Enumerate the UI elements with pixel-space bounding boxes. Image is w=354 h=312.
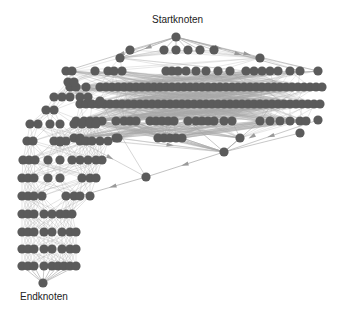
graph-node [57,227,66,236]
graph-node [285,116,294,125]
graph-node [255,53,264,62]
graph-node [95,96,104,105]
graph-node [85,191,94,200]
graph-node [225,66,234,75]
graph-node [213,66,222,75]
graph-node [55,155,64,164]
graph-node [43,173,52,182]
graph-node [265,66,274,75]
graph-node [103,136,112,145]
nodes-layer [17,32,326,287]
end-node-label: Endknoten [20,291,68,302]
graph-node [257,66,266,75]
graph-node [69,77,78,86]
graph-node [41,105,50,114]
graph-node [47,227,56,236]
graph-node [201,66,210,75]
graph-node [39,244,48,253]
arrowhead-icon [181,161,189,165]
graph-node [29,261,38,270]
directed-graph [0,0,354,312]
graph-node [91,173,100,182]
graph-node [47,209,56,218]
graph-node [75,92,84,101]
graph-node [313,115,322,124]
graph-node [69,119,78,128]
graph-node [317,82,326,91]
arrowhead-icon [243,51,251,55]
graph-node [55,173,64,182]
graph-node [113,133,122,142]
graph-node [29,173,38,182]
graph-node [111,116,120,125]
graph-node [29,191,38,200]
arrowhead-icon [166,143,174,147]
graph-node [71,261,80,270]
graph-node [55,119,64,128]
graph-node [83,155,92,164]
graph-node [125,45,134,54]
graph-node [61,191,70,200]
graph-node [45,119,54,128]
graph-node [191,66,200,75]
graph-node [30,155,39,164]
graph-node [255,116,264,125]
graph-node [131,116,140,125]
graph-node [25,119,34,128]
graph-node [90,66,99,75]
graph-node [29,227,38,236]
graph-node [275,116,284,125]
graph-node [97,155,106,164]
graph-node [209,45,218,54]
graph-node [173,66,182,75]
graph-node [29,244,38,253]
graph-node [43,155,52,164]
graph-node [71,227,80,236]
graph-node [301,116,310,125]
graph-node [115,53,124,62]
graph-node [169,116,178,125]
graph-node [235,133,244,142]
graph-node [273,66,282,75]
graph-node [171,45,180,54]
graph-node [249,66,258,75]
end-node [38,278,47,287]
graph-node [57,92,66,101]
graph-node [75,155,84,164]
graph-node [315,99,324,108]
graph-node [75,191,84,200]
graph-node [39,261,48,270]
graph-node [55,137,64,146]
graph-node [37,191,46,200]
graph-node [67,155,76,164]
graph-node [313,66,322,75]
graph-node [159,45,168,54]
start-node-label: Startknoten [152,14,203,25]
graph-node [227,116,236,125]
start-node [171,32,180,41]
graph-node [295,66,304,75]
graph-node [71,244,80,253]
graph-node [265,116,274,125]
graph-node [195,45,204,54]
graph-node [77,119,86,128]
graph-node [49,92,58,101]
graph-node [91,119,100,128]
graph-node [219,147,228,156]
graph-node [77,173,86,182]
arrowhead-icon [267,133,275,137]
arrowhead-icon [106,154,114,159]
graph-node [241,66,250,75]
graph-node [33,119,42,128]
graph-node [47,244,56,253]
graph-node [39,227,48,236]
graph-node [81,82,90,91]
graph-node [67,66,76,75]
graph-node [95,136,104,145]
arrowhead-icon [109,184,117,188]
graph-node [39,209,48,218]
graph-node [65,92,74,101]
graph-node [67,209,76,218]
graph-node [209,116,218,125]
graph-node [181,66,190,75]
